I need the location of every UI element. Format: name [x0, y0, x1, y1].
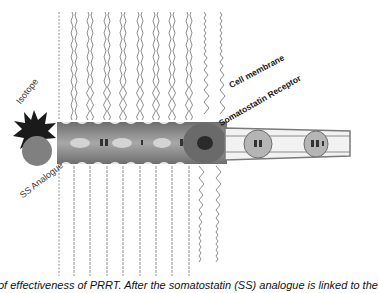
- ss-analogue-icon: [22, 136, 52, 166]
- membrane-band: [57, 118, 227, 168]
- lower-lipid-tails: [59, 166, 221, 276]
- upper-lipid-tails: [59, 12, 225, 120]
- receptor-intracellular-tail: [225, 128, 350, 160]
- figure-caption: of effectiveness of PRRT. After the soma…: [0, 279, 378, 291]
